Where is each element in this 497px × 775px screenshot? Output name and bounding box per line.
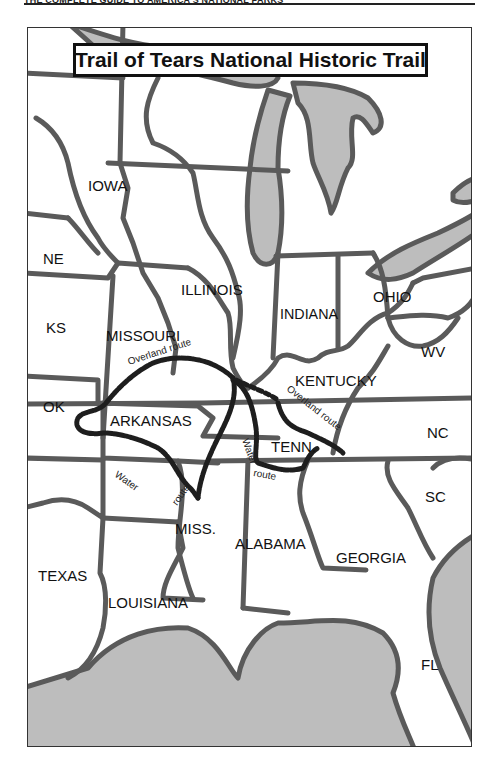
label-louisiana: LOUISIANA: [108, 594, 188, 611]
label-texas: TEXAS: [38, 567, 87, 584]
label-georgia: GEORGIA: [336, 549, 406, 566]
label-missouri: MISSOURI: [106, 327, 180, 344]
gulf-of-mexico: [28, 621, 416, 748]
map-title: Trail of Tears National Historic Trail: [75, 48, 426, 72]
header-rule: [24, 3, 475, 5]
label-ks: KS: [46, 319, 66, 336]
label-arkansas: ARKANSAS: [110, 412, 192, 429]
lake-ontario: [453, 178, 472, 203]
label-miss: MISS.: [175, 520, 216, 537]
label-ok: OK: [43, 398, 65, 415]
atlantic-ocean: [429, 533, 472, 747]
label-water-arkansas-1: Water: [113, 469, 141, 493]
label-indiana: INDIANA: [280, 305, 338, 322]
label-ohio: OHIO: [373, 288, 411, 305]
label-sc: SC: [425, 488, 446, 505]
label-iowa: IOWA: [88, 177, 127, 194]
state-borders: [28, 28, 472, 678]
label-tenn: TENN.: [271, 438, 316, 455]
lake-huron: [293, 83, 381, 213]
label-nc: NC: [427, 424, 449, 441]
label-kentucky: KENTUCKY: [295, 372, 377, 389]
us-map: IOWA NE KS OK MISSOURI ILLINOIS INDIANA …: [28, 28, 472, 747]
map-title-box: Trail of Tears National Historic Trail: [73, 43, 428, 77]
label-wv: WV: [421, 343, 445, 360]
map-frame: IOWA NE KS OK MISSOURI ILLINOIS INDIANA …: [27, 27, 472, 747]
lake-michigan: [247, 90, 290, 264]
label-illinois: ILLINOIS: [181, 281, 243, 298]
label-alabama: ALABAMA: [235, 535, 306, 552]
label-fl: FL: [421, 656, 439, 673]
label-ne: NE: [43, 250, 64, 267]
